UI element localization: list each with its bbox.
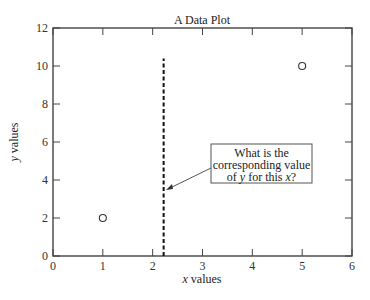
y-tick-label: 0: [42, 249, 48, 263]
x-tick-label: 5: [299, 259, 305, 273]
y-tick-label: 6: [42, 135, 48, 149]
annotation: What is the corresponding value of y for…: [166, 144, 312, 190]
y-tick-label: 4: [42, 173, 48, 187]
x-tick-label: 2: [150, 259, 156, 273]
annotation-arrow: [168, 168, 211, 189]
y-tick-label: 10: [36, 59, 48, 73]
data-points: [99, 63, 305, 222]
x-tick-label: 4: [249, 259, 255, 273]
x-tick-label: 1: [100, 259, 106, 273]
chart: 0123456 024681012 A Data Plot x values y…: [0, 0, 370, 300]
x-tick-label: 0: [50, 259, 56, 273]
arrowhead-icon: [166, 184, 173, 190]
data-point-marker: [299, 63, 306, 70]
y-tick-label: 8: [42, 97, 48, 111]
y-axis-label: y values: [7, 122, 21, 162]
chart-title: A Data Plot: [174, 13, 231, 27]
plot-frame: [53, 28, 352, 256]
y-tick-label: 2: [42, 211, 48, 225]
data-point-marker: [99, 215, 106, 222]
x-tick-label: 3: [200, 259, 206, 273]
x-axis-label: x values: [182, 272, 222, 286]
x-tick-label: 6: [349, 259, 355, 273]
annotation-line-3: of y for this x?: [227, 170, 296, 184]
y-tick-label: 12: [36, 21, 48, 35]
y-axis-ticks: 024681012: [36, 21, 352, 263]
